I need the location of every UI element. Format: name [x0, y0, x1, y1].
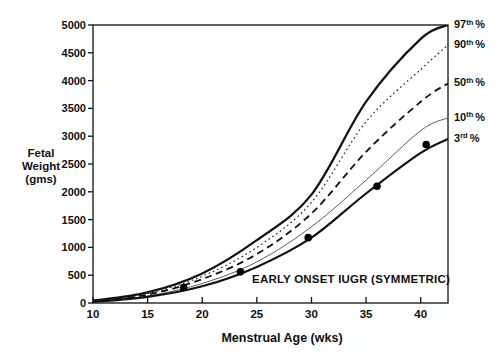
x-tick-label: 25 — [250, 308, 263, 320]
iugr-data-point — [422, 141, 430, 149]
fetal-growth-chart: 0500100015002000250030003500400045005000… — [0, 0, 495, 357]
iugr-data-point — [237, 268, 245, 276]
y-axis-label-line1: Fetal — [8, 147, 74, 160]
growth-chart-svg: 0500100015002000250030003500400045005000… — [0, 0, 495, 357]
y-axis-label: Fetal Weight (gms) — [8, 147, 74, 186]
y-tick-label: 500 — [68, 269, 86, 281]
x-tick-label: 15 — [141, 308, 154, 320]
iugr-data-point — [373, 182, 381, 190]
x-tick-label: 35 — [360, 308, 373, 320]
y-tick-label: 3500 — [62, 102, 86, 114]
iugr-data-point — [304, 234, 312, 242]
series-label-50th-percentile: 50th% — [454, 76, 485, 89]
x-tick-label: 40 — [414, 308, 427, 320]
curve-50th-percentile — [93, 83, 448, 301]
y-tick-label: 5000 — [62, 19, 86, 31]
curve-90th-percentile — [93, 45, 448, 301]
iugr-annotation: EARLY ONSET IUGR (SYMMETRIC) — [252, 273, 450, 285]
x-tick-label: 10 — [87, 308, 100, 320]
x-tick-label: 30 — [305, 308, 318, 320]
y-tick-label: 3000 — [62, 130, 86, 142]
y-axis-label-line3: (gms) — [8, 173, 74, 186]
y-tick-label: 1000 — [62, 241, 86, 253]
series-label-97th-percentile: 97th% — [454, 18, 485, 31]
series-label-90th-percentile: 90th% — [454, 38, 485, 51]
y-tick-label: 4500 — [62, 47, 86, 59]
y-axis-label-line2: Weight — [8, 160, 74, 173]
x-tick-label: 20 — [196, 308, 209, 320]
x-axis-label: Menstrual Age (wks) — [221, 331, 342, 345]
curves-group — [93, 25, 448, 302]
y-tick-label: 2000 — [62, 186, 86, 198]
y-tick-label: 1500 — [62, 214, 86, 226]
series-label-10th-percentile: 10th% — [454, 110, 485, 123]
iugr-data-point — [180, 284, 188, 292]
y-tick-label: 4000 — [62, 75, 86, 87]
series-label-3rd-percentile: 3rd% — [454, 131, 480, 144]
y-tick-label: 0 — [80, 297, 86, 309]
